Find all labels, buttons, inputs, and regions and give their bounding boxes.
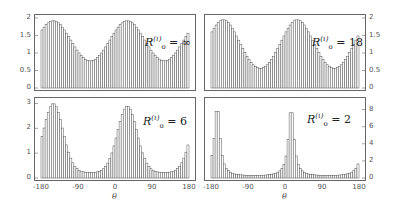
x-tick-label: -90 (242, 184, 253, 191)
x-axis-label: θ (112, 192, 117, 201)
x-tick-label: -180 (203, 184, 219, 191)
y-tick-label: 0 (369, 84, 373, 91)
x-tick-label: -90 (72, 184, 83, 191)
panel-label: R(ι)o = 2 (307, 112, 351, 128)
x-axis-label: θ (282, 192, 287, 201)
x-tick-label: 90 (318, 184, 327, 191)
y-tick-label: 2 (27, 124, 31, 131)
y-tick-label: 1.5 (369, 32, 380, 39)
panel-bottom-left: R(ι)o = 6 (34, 97, 196, 181)
y-tick-label: 0 (27, 174, 31, 181)
y-tick-label: 0.5 (20, 67, 31, 74)
panel-top-left: R(ι)o = ∞ (34, 14, 196, 91)
y-tick-label: 2 (369, 14, 373, 21)
y-tick-label: 3 (27, 99, 31, 106)
y-tick-label: 1.5 (20, 32, 31, 39)
histogram-bars (35, 98, 195, 180)
y-tick-label: 0 (27, 84, 31, 91)
y-tick-label: 1 (27, 49, 31, 56)
x-tick-label: 90 (148, 184, 157, 191)
x-tick-label: 0 (113, 184, 117, 191)
y-tick-label: 2 (27, 14, 31, 21)
y-tick-label: 1 (27, 149, 31, 156)
histogram-bars (35, 15, 195, 90)
y-tick-label: 1 (369, 49, 373, 56)
y-tick-label: 0 (369, 174, 373, 181)
x-tick-label: 180 (182, 184, 195, 191)
histogram-bars (205, 98, 365, 180)
panel-bottom-right: R(ι)o = 2 (204, 97, 366, 181)
panel-label: R(ι)o = 18 (312, 35, 363, 51)
panel-top-right: R(ι)o = 18 (204, 14, 366, 91)
x-tick-label: 0 (283, 184, 287, 191)
y-tick-label: 6 (369, 123, 373, 130)
y-tick-label: 8 (369, 106, 373, 113)
y-tick-label: 2 (369, 157, 373, 164)
panel-label: R(ι)o = 6 (143, 114, 187, 130)
x-tick-label: 180 (352, 184, 365, 191)
histogram-bars (205, 15, 365, 90)
y-tick-label: 4 (369, 140, 373, 147)
panel-label: R(ι)o = ∞ (145, 35, 191, 51)
y-tick-label: 0.5 (369, 67, 380, 74)
x-tick-label: -180 (33, 184, 49, 191)
